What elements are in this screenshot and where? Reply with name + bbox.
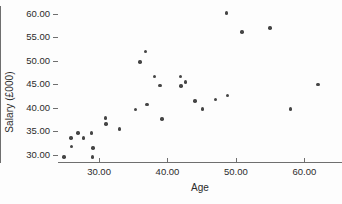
data-point (138, 60, 141, 63)
x-tick-label: 50.00 (211, 166, 261, 177)
data-point (201, 107, 204, 110)
y-tick-label: 30.00 (4, 149, 50, 160)
plot-area (58, 6, 342, 163)
data-point (91, 155, 94, 158)
data-point (268, 26, 271, 29)
x-tick-label: 40.00 (142, 166, 192, 177)
data-point (76, 131, 79, 134)
data-point (240, 30, 243, 33)
data-point (104, 122, 107, 125)
y-tick-label: 35.00 (4, 125, 50, 136)
x-tick-label: 30.00 (74, 166, 124, 177)
y-tick-label: 45.00 (4, 78, 50, 89)
data-point (69, 136, 72, 139)
y-axis-line (0, 6, 1, 163)
scatter-chart: Salary (£000) Age 30.0035.0040.0045.0050… (0, 0, 342, 204)
y-tick-label: 40.00 (4, 102, 50, 113)
data-point (193, 99, 196, 102)
data-point (225, 11, 228, 14)
data-point (160, 117, 163, 120)
data-point (134, 108, 137, 111)
data-point (91, 146, 94, 149)
y-tick-label: 60.00 (4, 8, 50, 19)
data-point (184, 80, 187, 83)
data-point (62, 155, 65, 158)
y-tick-label: 50.00 (4, 55, 50, 66)
data-point (158, 84, 161, 87)
data-point (289, 107, 292, 110)
data-point (179, 84, 182, 87)
data-point (90, 131, 93, 134)
x-axis-title: Age (58, 182, 342, 193)
x-tick-label: 60.00 (279, 166, 329, 177)
data-point (104, 116, 107, 119)
data-point (82, 136, 85, 139)
data-point (316, 83, 319, 86)
y-tick-label: 55.00 (4, 31, 50, 42)
